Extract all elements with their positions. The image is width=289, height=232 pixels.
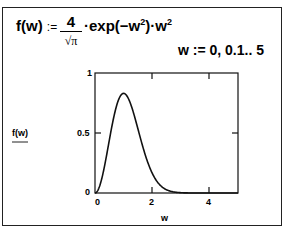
x-tick-4: 4 xyxy=(206,197,211,207)
plot[interactable] xyxy=(0,0,289,232)
x-tick-0: 0 xyxy=(95,197,100,207)
y-tick-0.5: 0.5 xyxy=(77,128,90,138)
series-line xyxy=(95,93,238,193)
x-axis-label[interactable]: w xyxy=(161,213,168,223)
y-axis-label[interactable]: f(w) xyxy=(12,128,28,138)
y-tick-1: 1 xyxy=(87,68,92,78)
plot-box xyxy=(95,73,238,193)
x-tick-2: 2 xyxy=(149,197,154,207)
ticks xyxy=(95,73,238,193)
y-tick-0: 0 xyxy=(85,187,90,197)
